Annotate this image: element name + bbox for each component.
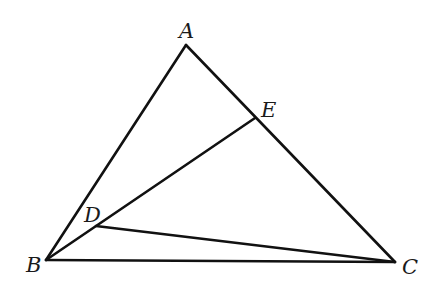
triangle-diagram: A B C D E: [0, 0, 445, 294]
label-c: C: [402, 255, 418, 279]
segment-bc: [46, 260, 395, 262]
label-e: E: [260, 98, 276, 122]
segment-ac: [186, 45, 395, 262]
label-a: A: [177, 19, 194, 43]
segment-dc: [96, 226, 395, 262]
label-b: B: [25, 253, 41, 277]
label-d: D: [83, 203, 101, 227]
segment-be: [46, 118, 255, 260]
